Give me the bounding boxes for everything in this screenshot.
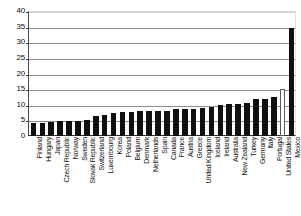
x-label-text: Switzerland xyxy=(98,137,105,170)
bar xyxy=(182,109,188,137)
bar-slot xyxy=(120,11,126,136)
bar xyxy=(235,104,241,136)
x-label-text: Iceland xyxy=(214,137,221,158)
bar-slot xyxy=(289,11,295,136)
bar xyxy=(226,104,232,136)
x-label-text: Ireland xyxy=(223,137,230,157)
bar-slot xyxy=(84,11,90,136)
x-label: Greece xyxy=(196,137,203,158)
bar-slot xyxy=(111,11,117,136)
x-label-text: France xyxy=(178,137,185,157)
bar xyxy=(164,111,170,136)
x-label: Hungary xyxy=(45,137,52,162)
x-label-text: Austria xyxy=(187,137,194,157)
x-label: Australia xyxy=(232,137,239,162)
x-label: Iceland xyxy=(214,137,221,158)
bar-slot xyxy=(253,11,259,136)
x-label: Belgium xyxy=(134,137,141,161)
x-label-text: Korea xyxy=(116,137,123,154)
y-tick-label-30: 30 xyxy=(1,38,25,46)
x-label: Mexico xyxy=(294,137,301,158)
bar-slot xyxy=(40,11,46,136)
bar xyxy=(40,123,46,136)
bar-slot xyxy=(235,11,241,136)
x-label-text: Netherlands xyxy=(152,137,159,172)
bar xyxy=(31,123,37,136)
y-tick-label-15: 15 xyxy=(1,85,25,93)
bar xyxy=(271,97,277,136)
x-label-text: Turkey xyxy=(250,137,257,157)
x-label: Portugal xyxy=(276,137,283,161)
x-label: Luxembourg xyxy=(107,137,114,173)
x-label-text: Sweden xyxy=(81,137,88,161)
x-label-text: Norway xyxy=(72,137,79,159)
bar xyxy=(173,109,179,136)
bar-slot xyxy=(244,11,250,136)
bar-slot xyxy=(155,11,161,136)
bar-slot xyxy=(191,11,197,136)
x-label-text: Canada xyxy=(170,137,177,160)
bar-slot xyxy=(146,11,152,136)
x-label: United States xyxy=(285,137,292,176)
x-label: Switzerland xyxy=(98,137,105,170)
bar xyxy=(200,108,206,136)
x-label-text: Greece xyxy=(196,137,203,158)
x-label: United Kingdom xyxy=(205,137,212,183)
x-axis-category-labels: FinlandHungaryJapanCzech RepublicNorwayS… xyxy=(29,137,296,216)
x-label-text: Italy xyxy=(267,137,274,149)
bar-slot xyxy=(262,11,268,136)
x-label-text: Australia xyxy=(232,137,239,162)
x-label: Italy xyxy=(267,137,274,149)
bar-slot xyxy=(209,11,215,136)
bar-slot xyxy=(75,11,81,136)
bar-slot xyxy=(48,11,54,136)
x-label: Ireland xyxy=(223,137,230,157)
bar xyxy=(253,99,259,136)
x-label-text: Poland xyxy=(125,137,132,157)
bar xyxy=(280,89,286,136)
x-label: Japan xyxy=(54,137,61,155)
y-tick-label-5: 5 xyxy=(1,116,25,124)
bar-slot xyxy=(102,11,108,136)
bar xyxy=(129,112,135,136)
bar xyxy=(155,111,161,136)
x-label-text: Slovak Republic xyxy=(89,137,96,183)
x-label: France xyxy=(178,137,185,157)
x-label-text: Spain xyxy=(161,137,168,154)
x-label: Netherlands xyxy=(152,137,159,172)
x-label: Austria xyxy=(187,137,194,157)
bar xyxy=(120,112,126,136)
x-label: Turkey xyxy=(250,137,257,157)
bar xyxy=(191,109,197,137)
bar xyxy=(111,113,117,136)
bar xyxy=(66,121,72,136)
x-label: Sweden xyxy=(81,137,88,161)
bar xyxy=(262,99,268,137)
bars-container xyxy=(29,11,296,136)
x-label: Norway xyxy=(72,137,79,159)
bar xyxy=(209,107,215,136)
x-label: Poland xyxy=(125,137,132,157)
x-label: Korea xyxy=(116,137,123,154)
bar-slot xyxy=(31,11,37,136)
x-label: Slovak Republic xyxy=(89,137,96,183)
x-label-text: Luxembourg xyxy=(107,137,114,173)
bar-slot xyxy=(129,11,135,136)
x-label-text: Germany xyxy=(259,137,266,164)
bar xyxy=(93,116,99,136)
x-label-text: Mexico xyxy=(294,137,301,158)
x-label: Denmark xyxy=(143,137,150,164)
bar-slot xyxy=(280,11,286,136)
bar xyxy=(146,111,152,136)
bar-slot xyxy=(271,11,277,136)
bar-slot xyxy=(57,11,63,136)
x-label-text: Czech Republic xyxy=(63,137,70,183)
bar xyxy=(102,115,108,136)
bar-slot xyxy=(66,11,72,136)
y-tick-label-20: 20 xyxy=(1,70,25,78)
bar-slot xyxy=(137,11,143,136)
x-label-text: Finland xyxy=(36,137,43,158)
bar xyxy=(137,111,143,136)
bar xyxy=(289,28,295,136)
x-label-text: Portugal xyxy=(276,137,283,161)
